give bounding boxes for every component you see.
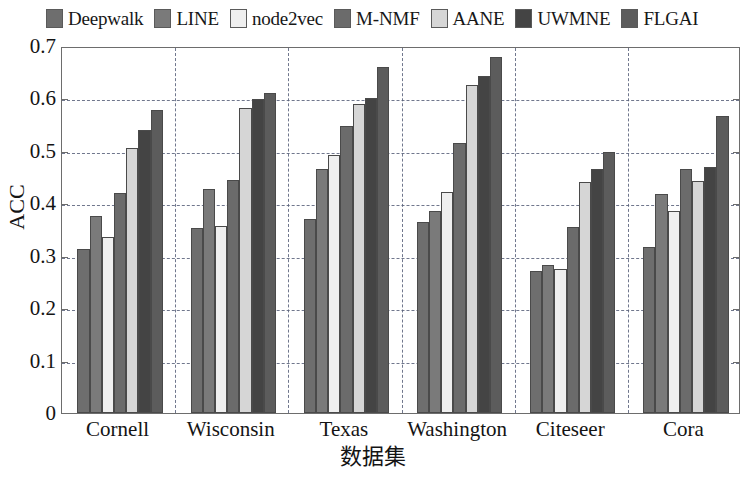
chart-legend: DeepwalkLINEnode2vecM-NMFAANEUWMNEFLGAI <box>0 4 746 32</box>
legend-swatch-icon <box>334 9 351 28</box>
bar-washington-uwmne <box>478 76 490 413</box>
legend-swatch-icon <box>154 9 171 28</box>
legend-entry-flgai: FLGAI <box>621 9 698 28</box>
bar-wisconsin-node2vec <box>215 226 227 413</box>
bar-washington-m-nmf <box>453 143 465 413</box>
bar-citeseer-flgai <box>603 152 615 413</box>
bar-texas-node2vec <box>328 155 340 413</box>
bar-texas-deepwalk <box>304 219 316 413</box>
x-tick-label-cornell: Cornell <box>86 418 149 441</box>
x-tick-label-citeseer: Citeseer <box>536 418 605 441</box>
bar-texas-flgai <box>377 67 389 413</box>
y-tick-mark-right <box>733 99 740 100</box>
bar-wisconsin-deepwalk <box>191 228 203 413</box>
bar-cornell-deepwalk <box>77 249 89 413</box>
gridline-horizontal <box>62 100 739 101</box>
bar-texas-uwmne <box>365 98 377 413</box>
plot-area <box>61 47 740 414</box>
bar-washington-line <box>429 211 441 413</box>
legend-label: FLGAI <box>643 9 698 28</box>
gridline-horizontal <box>62 258 739 259</box>
legend-swatch-icon <box>230 9 247 28</box>
bar-texas-line <box>316 169 328 413</box>
bar-citeseer-node2vec <box>554 269 566 413</box>
bar-citeseer-deepwalk <box>530 271 542 413</box>
legend-label: UWMNE <box>537 9 610 28</box>
bar-wisconsin-uwmne <box>252 99 264 413</box>
bar-cora-deepwalk <box>643 247 655 413</box>
legend-swatch-icon <box>621 9 638 28</box>
x-tick-label-washington: Washington <box>407 418 507 441</box>
bar-cora-m-nmf <box>680 169 692 413</box>
bar-citeseer-aane <box>579 182 591 413</box>
gridline-horizontal <box>62 310 739 311</box>
gridline-horizontal <box>62 153 739 154</box>
legend-swatch-icon <box>46 9 63 28</box>
bar-chart-figure: DeepwalkLINEnode2vecM-NMFAANEUWMNEFLGAI … <box>0 0 746 477</box>
legend-entry-m-nmf: M-NMF <box>334 9 419 28</box>
bar-citeseer-uwmne <box>591 169 603 413</box>
y-tick-mark-right <box>733 257 740 258</box>
x-tick-label-cora: Cora <box>663 418 704 441</box>
y-tick-mark <box>61 362 68 363</box>
bar-cornell-aane <box>126 148 138 413</box>
bar-wisconsin-aane <box>239 108 251 413</box>
gridline-vertical <box>288 48 289 413</box>
legend-label: Deepwalk <box>68 9 143 28</box>
y-axis-label: ACC <box>6 152 28 262</box>
bar-washington-deepwalk <box>417 222 429 413</box>
y-tick-mark <box>61 152 68 153</box>
legend-entry-node2vec: node2vec <box>230 9 323 28</box>
gridline-vertical <box>628 48 629 413</box>
y-tick-label: 0 <box>4 403 56 424</box>
bar-citeseer-line <box>542 265 554 413</box>
legend-label: LINE <box>176 9 218 28</box>
bar-cornell-m-nmf <box>114 193 126 413</box>
y-tick-mark-right <box>733 309 740 310</box>
bar-cora-node2vec <box>668 211 680 413</box>
y-tick-mark <box>61 99 68 100</box>
bar-texas-m-nmf <box>340 126 352 413</box>
bar-washington-flgai <box>490 57 502 414</box>
x-axis-tick-labels: CornellWisconsinTexasWashingtonCiteseerC… <box>61 418 740 444</box>
y-tick-label: 0.1 <box>4 351 56 372</box>
bar-citeseer-m-nmf <box>567 227 579 413</box>
x-axis-label: 数据集 <box>0 444 746 470</box>
y-tick-mark <box>61 309 68 310</box>
gridline-vertical <box>402 48 403 413</box>
bar-cora-uwmne <box>704 167 716 413</box>
bar-cora-aane <box>692 181 704 413</box>
y-tick-mark-right <box>733 362 740 363</box>
y-tick-mark <box>61 257 68 258</box>
bar-cornell-node2vec <box>102 237 114 413</box>
legend-swatch-icon <box>515 9 532 28</box>
y-tick-label: 0.7 <box>4 36 56 57</box>
x-tick-label-texas: Texas <box>320 418 369 441</box>
bar-washington-aane <box>466 85 478 413</box>
legend-entry-aane: AANE <box>431 9 505 28</box>
gridline-horizontal <box>62 205 739 206</box>
gridline-vertical <box>515 48 516 413</box>
bar-wisconsin-flgai <box>264 93 276 413</box>
legend-entry-uwmne: UWMNE <box>515 9 610 28</box>
y-tick-mark <box>61 204 68 205</box>
y-tick-mark-right <box>733 204 740 205</box>
gridline-vertical <box>175 48 176 413</box>
bar-washington-node2vec <box>441 192 453 413</box>
legend-entry-deepwalk: Deepwalk <box>46 9 143 28</box>
bar-wisconsin-line <box>203 189 215 413</box>
bar-cora-line <box>655 194 667 413</box>
legend-label: node2vec <box>252 9 323 28</box>
gridline-horizontal <box>62 363 739 364</box>
legend-label: AANE <box>453 9 505 28</box>
legend-label: M-NMF <box>356 9 419 28</box>
legend-swatch-icon <box>431 9 448 28</box>
bar-cornell-flgai <box>151 110 163 413</box>
bar-cornell-line <box>90 216 102 413</box>
bar-cora-flgai <box>716 116 728 413</box>
y-tick-label: 0.2 <box>4 298 56 319</box>
legend-entry-line: LINE <box>154 9 218 28</box>
bar-texas-aane <box>353 104 365 413</box>
bar-wisconsin-m-nmf <box>227 180 239 413</box>
bar-cornell-uwmne <box>138 130 150 413</box>
